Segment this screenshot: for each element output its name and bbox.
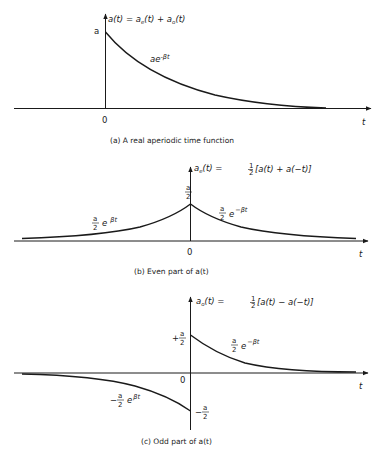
caption-b: (b) Even part of a(t) [134,267,209,276]
svg-text:2: 2 [186,193,190,201]
x-axis-label: t [359,249,363,259]
svg-text:2: 2 [118,401,122,409]
caption-a: (a) A real aperiodic time function [110,136,234,145]
svg-text:a: a [232,337,236,345]
svg-text:e−βt: e−βt [241,338,260,351]
svg-text:a: a [180,330,184,338]
even-curve-right [191,204,357,239]
bracket-expression: [a(t) + a(−t)] [255,164,312,174]
x-axis-label: t [359,381,363,391]
right-curve-label: a 2 e−βt [219,205,248,222]
panel-b-title: ae(t) = [194,163,222,174]
svg-text:2: 2 [232,346,236,354]
svg-text:a: a [220,205,224,213]
curve-label: ae-βt [150,53,170,64]
half-fraction: 1 2 [248,162,253,177]
svg-text:a: a [118,392,122,400]
neg-label: − a 2 [195,404,209,421]
panel-a: a(t) = ae(t) + ao(t) a 0 t ae-βt (a) A r… [14,14,371,145]
svg-text:2: 2 [93,224,97,232]
svg-text:−: − [110,395,117,405]
panel-b: ae(t) = 1 2 [a(t) + a(−t)] a 2 a 2 eβt a… [14,162,368,276]
svg-text:a: a [93,215,97,223]
odd-curve-positive [191,335,357,372]
svg-text:eβt: eβt [127,393,140,405]
svg-text:eβt: eβt [102,216,117,228]
svg-text:a: a [203,404,207,412]
svg-text:e−βt: e−βt [229,206,248,219]
x-axis-label: t [362,117,366,127]
bracket-expression: [a(t) − a(−t)] [257,297,314,307]
svg-text:−: − [195,407,202,417]
svg-text:+: + [172,333,179,343]
figure: a(t) = ae(t) + ao(t) a 0 t ae-βt (a) A r… [0,0,382,449]
svg-text:2: 2 [180,339,184,347]
half-fraction: 1 2 [250,295,255,310]
panel-c: ao(t) = 1 2 [a(t) − a(−t)] + a 2 − a 2 a… [14,295,368,446]
origin-label: 0 [187,247,192,257]
origin-label: 0 [102,115,107,125]
svg-text:2: 2 [249,169,253,177]
panel-a-title: a(t) = ae(t) + ao(t) [108,14,185,25]
svg-text:2: 2 [220,214,224,222]
svg-text:2: 2 [203,413,207,421]
caption-c: (c) Odd part of a(t) [141,437,212,446]
svg-text:2: 2 [251,302,255,310]
decay-curve [106,32,327,108]
panel-c-title: ao(t) = [196,296,224,307]
right-curve-label: a 2 e−βt [231,337,260,354]
left-curve-label: − a 2 eβt [110,392,140,409]
left-curve-label: a 2 eβt [92,215,117,232]
y-value-a: a [94,26,99,36]
pos-label: + a 2 [172,330,186,347]
origin-label: 0 [180,375,185,385]
odd-curve-negative [22,374,191,411]
svg-text:a: a [186,184,190,192]
